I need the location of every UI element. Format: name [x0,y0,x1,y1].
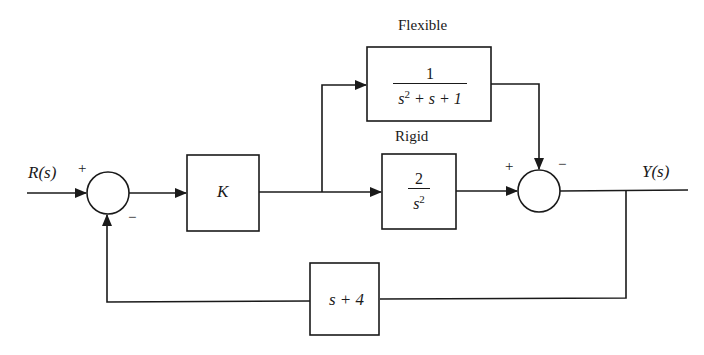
flexible-numerator: 1 [422,65,438,83]
input-signal-label: R(s) [28,163,56,183]
sum1-plus-sign: + [78,160,86,177]
flexible-den-rest: + s + 1 [410,90,462,107]
controller-gain-label: K [217,182,228,202]
summing-junction-2 [518,170,560,212]
output-signal-label: Y(s) [642,162,669,182]
flexible-denominator: s2 + s + 1 [394,84,466,109]
flexible-transfer-function: 1 s2 + s + 1 [393,65,467,109]
block-diagram-canvas: R(s) + − K Flexible 1 s2 + s + 1 Rigid 2… [0,0,704,355]
rigid-den-exp: 2 [419,193,425,205]
sum1-minus-sign: − [128,209,136,226]
flexible-to-sum2-arrow [491,84,539,169]
feedback-to-sum1-arrow [107,215,310,302]
sum2-plus-sign: + [505,158,513,175]
feedback-transfer-function: s + 4 [329,290,364,310]
sum2-minus-sign: − [558,156,566,173]
summing-junction-1 [87,172,129,214]
rigid-numerator: 2 [411,170,427,188]
flexible-title: Flexible [398,17,447,34]
rigid-denominator: s2 [409,189,429,214]
branch-to-flexible-arrow [322,85,366,192]
rigid-transfer-function: 2 s2 [408,170,430,214]
output-line [560,190,688,191]
rigid-title: Rigid [395,128,428,145]
